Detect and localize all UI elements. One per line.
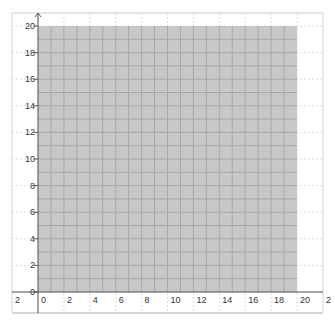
x-tick-label: 4 [93, 295, 98, 305]
y-tick-label: 0 [30, 287, 35, 297]
x-tick-label: 2 [15, 295, 20, 305]
y-tick-label: 12 [25, 127, 35, 137]
x-tick-label: 0 [41, 295, 46, 305]
y-tick-label: 6 [30, 207, 35, 217]
x-tick-label: 8 [145, 295, 150, 305]
x-tick-label: 16 [248, 295, 258, 305]
region-grid [38, 26, 297, 292]
x-tick-label: 2 [326, 295, 331, 305]
y-tick-label: 8 [30, 181, 35, 191]
y-tick-label: 16 [25, 74, 35, 84]
y-tick-label: 18 [25, 48, 35, 58]
y-tick-label: 4 [30, 234, 35, 244]
x-tick-label: 14 [222, 295, 232, 305]
x-tick-label: 2 [67, 295, 72, 305]
y-tick-label: 14 [25, 101, 35, 111]
x-tick-label: 6 [119, 295, 124, 305]
x-tick-label: 18 [274, 295, 284, 305]
x-tick-label: 12 [196, 295, 206, 305]
y-tick-labels: 02468101214161820 [25, 21, 35, 297]
y-tick-label: 10 [25, 154, 35, 164]
region-plot: 2024681012141618202 02468101214161820 [0, 0, 335, 326]
y-tick-label: 20 [25, 21, 35, 31]
x-tick-labels: 2024681012141618202 [15, 295, 331, 305]
x-tick-label: 20 [300, 295, 310, 305]
y-tick-label: 2 [30, 260, 35, 270]
x-tick-label: 10 [171, 295, 181, 305]
